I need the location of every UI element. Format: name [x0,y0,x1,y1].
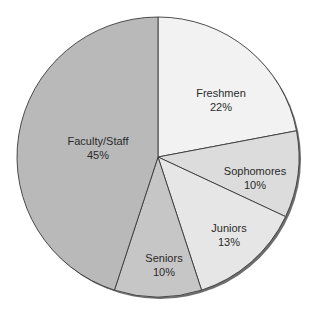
pie-chart: Freshmen22% Sophomores10% Juniors13% Sen… [0,0,319,315]
